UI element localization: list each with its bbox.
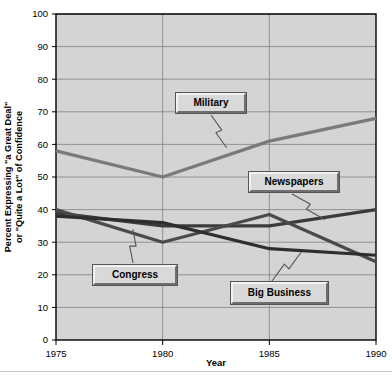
- y-tick-label: 10: [37, 302, 48, 313]
- line-chart: 0102030405060708090100 1975198019851990 …: [0, 0, 392, 377]
- y-tick-label: 20: [37, 269, 48, 280]
- y-axis-title: Percent Expressing "a Great Deal" or "Qu…: [3, 102, 24, 253]
- x-tick-label: 1975: [45, 348, 66, 359]
- y-tick-label: 70: [37, 106, 48, 117]
- x-tick-marks: [56, 340, 376, 345]
- callout-label-newspapers[interactable]: Newspapers: [249, 172, 339, 192]
- y-axis-tick-labels: 0102030405060708090100: [32, 8, 48, 345]
- x-tick-label: 1985: [259, 348, 280, 359]
- y-tick-label: 30: [37, 237, 48, 248]
- y-axis-title-line-1: Percent Expressing "a Great Deal": [3, 102, 13, 253]
- y-tick-label: 50: [37, 171, 48, 182]
- callout-label-congress[interactable]: Congress: [93, 265, 177, 285]
- x-axis-title: Year: [206, 357, 226, 368]
- y-axis-title-line-2: or "Quite a Lot" of Confidence: [14, 111, 24, 243]
- y-tick-label: 60: [37, 139, 48, 150]
- x-tick-label: 1990: [365, 348, 386, 359]
- callout-label-big-business[interactable]: Big Business: [231, 282, 328, 304]
- y-tick-label: 100: [32, 8, 48, 19]
- y-tick-label: 40: [37, 204, 48, 215]
- callout-label-military[interactable]: Military: [176, 93, 246, 113]
- y-tick-label: 80: [37, 74, 48, 85]
- y-tick-label: 0: [43, 334, 48, 345]
- x-tick-label: 1980: [152, 348, 173, 359]
- y-tick-label: 90: [37, 41, 48, 52]
- bottom-divider: [0, 371, 392, 372]
